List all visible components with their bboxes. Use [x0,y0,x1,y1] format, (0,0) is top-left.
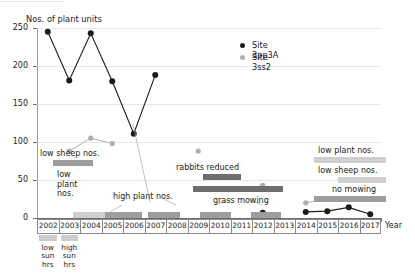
y-tick-mark [33,66,37,67]
annotation-bar-low-plant-nos-right [314,157,386,163]
clipped-top-text: …………………… [0,0,415,10]
y-tick-label: 200 [4,61,28,70]
annotation-bar-high-plant-nos [148,212,180,218]
gridline [37,104,381,105]
annotation-bar-low-sheep-nos-left [53,160,93,166]
y-tick-mark [33,180,37,181]
legend-dot-site-3pp3a [240,43,245,48]
x-axis-title: Year [385,221,402,230]
plant-units-line-chart: …………………… Nos. of plant units 05010015020… [0,0,415,276]
annotation-label-low-sheep-nos-left: low sheep nos. [40,149,100,158]
sun-hours-bar [39,235,57,241]
x-tick-mark [381,218,382,222]
annotation-bar-low-plant-nos-left [105,212,142,218]
y-tick-mark [33,142,37,143]
annotation-label-no-mowing: no mowing [332,185,376,194]
x-axis-year-cell[interactable]: 2007 [145,219,167,233]
annotation-bar-high-plant-nos [200,212,231,218]
y-tick-label: 0 [4,213,28,222]
annotation-label-grass-mowing: grass mowing [213,196,269,205]
annotation-bar-rabbits-reduced [203,174,241,180]
y-axis-line [37,28,38,218]
annotation-label-low-plant-nos-right: low plant nos. [318,146,374,155]
annotation-bar-grass-mowing [193,186,283,192]
y-tick-mark [33,28,37,29]
y-tick-mark [33,104,37,105]
sun-hours-bar [61,235,79,241]
annotation-label-low-sheep-nos-right: low sheep nos. [318,166,378,175]
y-tick-label: 150 [4,99,28,108]
x-axis-year-cell[interactable]: 2005 [102,219,124,233]
gridline [37,28,381,29]
x-axis-year-cell[interactable]: 2008 [166,219,188,233]
y-tick-label: 250 [4,23,28,32]
annotation-bar-low-sheep-nos-right [338,177,386,183]
x-axis-year-cell[interactable]: 2015 [317,219,339,233]
x-axis-cells-bottom-border [37,233,381,234]
x-axis-year-cell[interactable]: 2003 [59,219,81,233]
x-axis-year-cell[interactable]: 2012 [252,219,274,233]
x-axis-year-cell[interactable]: 2010 [209,219,231,233]
x-axis-year-cell[interactable]: 2002 [37,219,59,233]
sun-hours-note: highsunhrs [55,244,85,269]
x-axis-year-cell[interactable]: 2013 [274,219,296,233]
clipped-top-text-content: …………………… [0,0,64,4]
annotation-label-high-plant-nos: high plant nos. [113,192,173,201]
annotation-label-low-plant-nos-left: lowplantnos. [57,170,91,199]
x-axis-year-cell[interactable]: 2004 [80,219,102,233]
x-axis-year-cell[interactable]: 2011 [231,219,253,233]
gridline [37,66,381,67]
x-axis-year-cell[interactable]: 2009 [188,219,210,233]
annotation-bar-no-mowing [314,196,386,202]
legend-dot-site-3ss2 [240,55,245,60]
annotation-label-rabbits-reduced: rabbits reduced [176,163,239,172]
x-axis-year-cell[interactable]: 2014 [295,219,317,233]
gridline [37,142,381,143]
annotation-bar-low-plant-nos-left [73,212,105,218]
y-tick-label: 50 [4,175,28,184]
x-axis-year-cell[interactable]: 2017 [360,219,382,233]
annotation-bar-high-plant-nos [251,212,281,218]
legend-label-site-3ss2: Site 3ss2 [252,52,271,72]
y-tick-label: 100 [4,137,28,146]
x-axis-year-cell[interactable]: 2006 [123,219,145,233]
y-axis-title: Nos. of plant units [26,14,102,24]
x-axis-year-cell[interactable]: 2016 [338,219,360,233]
